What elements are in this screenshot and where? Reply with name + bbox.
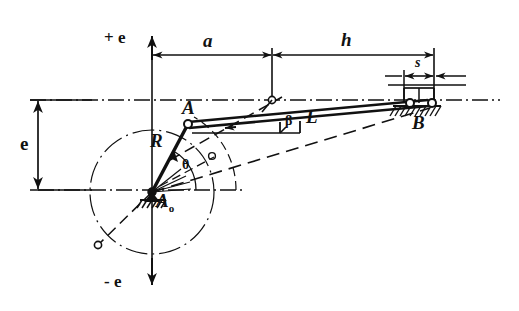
kinematic-diagram-figure: + e - e e a h s R L θ β A Ao B bbox=[0, 0, 519, 311]
centerline-node-group bbox=[262, 96, 276, 112]
minus-e-label: - e bbox=[104, 273, 121, 290]
offset-e-label: e bbox=[20, 134, 28, 153]
rod-angle-beta-label: β bbox=[285, 114, 292, 128]
crank-radius-label: R bbox=[150, 131, 163, 150]
construction-dashed-lines bbox=[100, 97, 430, 243]
point-b-label: B bbox=[412, 113, 425, 132]
point-a0-subscript: o bbox=[169, 202, 175, 214]
diagram-canvas bbox=[0, 0, 519, 311]
dim-s-label: s bbox=[415, 56, 420, 70]
crank-circle-node bbox=[94, 241, 101, 248]
plus-e-label: + e bbox=[104, 29, 125, 46]
slider-pin-right bbox=[428, 99, 436, 107]
dim-h-label: h bbox=[341, 30, 352, 49]
pin-joint-a bbox=[184, 120, 192, 128]
rod-length-label: L bbox=[306, 107, 318, 126]
point-a-label: A bbox=[182, 98, 195, 117]
circle-node-group bbox=[94, 241, 101, 248]
dimension-s bbox=[385, 70, 466, 100]
dimension-e bbox=[30, 100, 92, 190]
dim-a-label: a bbox=[203, 31, 213, 50]
point-a0-base: A bbox=[156, 190, 169, 211]
beta-arrow-on-rod bbox=[225, 127, 236, 128]
joint-A bbox=[184, 120, 192, 128]
centerline-node-tail bbox=[262, 100, 272, 112]
point-a0-label: Ao bbox=[156, 191, 174, 214]
slider-pin-left bbox=[406, 99, 414, 107]
crank-angle-theta-label: θ bbox=[182, 158, 189, 172]
